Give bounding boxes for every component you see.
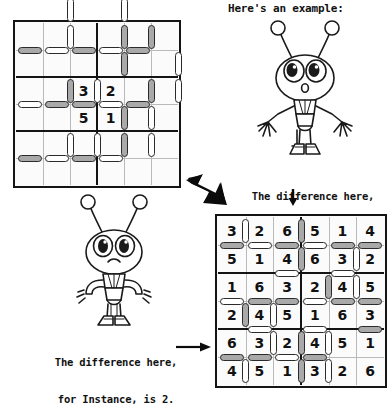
grid-cell[interactable]: 5 bbox=[301, 217, 329, 245]
grid-cell[interactable]: 4 bbox=[273, 245, 301, 273]
grid-cell[interactable] bbox=[43, 50, 70, 77]
grid-cell[interactable] bbox=[151, 131, 178, 158]
difference-marker-horizontal bbox=[220, 242, 244, 249]
grid-cell[interactable] bbox=[151, 77, 178, 104]
grid-cell[interactable] bbox=[151, 104, 178, 131]
difference-marker-horizontal bbox=[18, 47, 42, 54]
grid-cell[interactable]: 5 bbox=[246, 357, 274, 385]
grid-cell[interactable]: 1 bbox=[356, 329, 384, 357]
grid-cell[interactable]: 3 bbox=[356, 301, 384, 329]
grid-cell[interactable]: 1 bbox=[97, 104, 124, 131]
arrow-down-icon bbox=[286, 189, 300, 207]
difference-marker-vertical bbox=[242, 303, 249, 327]
grid-cell[interactable]: 5 bbox=[218, 245, 246, 273]
grid-cell[interactable]: 6 bbox=[246, 273, 274, 301]
grid-cell[interactable] bbox=[16, 104, 43, 131]
difference-marker-horizontal bbox=[303, 298, 327, 305]
grid-cell[interactable] bbox=[70, 50, 97, 77]
difference-marker-horizontal bbox=[331, 298, 355, 305]
grid-cell[interactable]: 2 bbox=[329, 357, 357, 385]
difference-marker-vertical bbox=[175, 52, 182, 76]
alien-character-arms-out-icon bbox=[252, 18, 358, 158]
solved-example-grid[interactable]: 326514514632163245245163632451451326 bbox=[215, 214, 387, 388]
grid-cell[interactable]: 5 bbox=[329, 329, 357, 357]
grid-cell[interactable] bbox=[151, 50, 178, 77]
difference-marker-horizontal bbox=[331, 242, 355, 249]
difference-marker-horizontal bbox=[358, 242, 382, 249]
grid-cell[interactable] bbox=[151, 158, 178, 185]
grid-cell[interactable] bbox=[43, 77, 70, 104]
thick-arrow-down-right-icon bbox=[182, 168, 230, 212]
grid-cell[interactable] bbox=[16, 131, 43, 158]
difference-marker-horizontal bbox=[99, 47, 123, 54]
grid-cell[interactable] bbox=[124, 104, 151, 131]
difference-marker-horizontal bbox=[275, 354, 299, 361]
difference-marker-vertical bbox=[121, 52, 128, 76]
difference-marker-vertical bbox=[242, 219, 249, 243]
difference-marker-vertical bbox=[121, 25, 128, 49]
grid-cell[interactable] bbox=[124, 77, 151, 104]
grid-cell[interactable] bbox=[97, 23, 124, 50]
difference-marker-horizontal bbox=[18, 155, 42, 162]
grid-cell[interactable] bbox=[16, 77, 43, 104]
grid-cell[interactable] bbox=[16, 50, 43, 77]
grid-cell[interactable]: 6 bbox=[301, 245, 329, 273]
difference-marker-vertical bbox=[94, 133, 101, 157]
grid-cell[interactable]: 6 bbox=[329, 301, 357, 329]
difference-marker-vertical bbox=[325, 359, 332, 383]
grid-cell[interactable]: 5 bbox=[70, 104, 97, 131]
grid-cell[interactable]: 2 bbox=[97, 77, 124, 104]
grid-cell[interactable] bbox=[97, 158, 124, 185]
grid-cell[interactable] bbox=[124, 50, 151, 77]
grid-cell[interactable] bbox=[97, 131, 124, 158]
unsolved-puzzle-grid[interactable]: 3251 bbox=[13, 20, 181, 188]
difference-marker-edge bbox=[121, 0, 128, 22]
difference-marker-vertical bbox=[175, 79, 182, 103]
grid-cell[interactable] bbox=[151, 23, 178, 50]
grid-cell[interactable]: 1 bbox=[329, 217, 357, 245]
grid-cell[interactable]: 3 bbox=[273, 273, 301, 301]
grid-cell[interactable]: 6 bbox=[218, 329, 246, 357]
grid-cell[interactable] bbox=[124, 158, 151, 185]
grid-cell[interactable]: 2 bbox=[246, 217, 274, 245]
grid-cell[interactable]: 1 bbox=[218, 273, 246, 301]
difference-marker-horizontal bbox=[248, 242, 272, 249]
example-heading: Here's an example: bbox=[228, 3, 344, 16]
grid-cell[interactable] bbox=[43, 158, 70, 185]
grid-cell[interactable]: 1 bbox=[246, 245, 274, 273]
grid-cell[interactable]: 1 bbox=[301, 301, 329, 329]
difference-marker-vertical bbox=[298, 219, 305, 243]
grid-cell[interactable]: 6 bbox=[273, 217, 301, 245]
difference-marker-vertical bbox=[148, 106, 155, 130]
grid-cell[interactable] bbox=[16, 23, 43, 50]
grid-cell[interactable]: 5 bbox=[356, 273, 384, 301]
difference-marker-vertical bbox=[353, 275, 360, 299]
grid-cell[interactable]: 1 bbox=[273, 357, 301, 385]
difference-marker-horizontal bbox=[99, 101, 123, 108]
grid-cell[interactable] bbox=[97, 50, 124, 77]
grid-cell[interactable] bbox=[16, 158, 43, 185]
difference-marker-horizontal bbox=[303, 242, 327, 249]
grid-cell[interactable] bbox=[70, 23, 97, 50]
difference-marker-vertical bbox=[353, 247, 360, 271]
grid-cell[interactable] bbox=[70, 158, 97, 185]
grid-cell[interactable]: 4 bbox=[356, 217, 384, 245]
grid-cell[interactable]: 6 bbox=[356, 357, 384, 385]
grid-cell[interactable] bbox=[124, 131, 151, 158]
grid-cell[interactable] bbox=[43, 104, 70, 131]
grid-cell[interactable] bbox=[43, 131, 70, 158]
arrow-right-icon bbox=[176, 340, 212, 354]
grid-cell[interactable]: 5 bbox=[273, 301, 301, 329]
grid-cell[interactable] bbox=[124, 23, 151, 50]
grid-cell[interactable]: 2 bbox=[356, 245, 384, 273]
grid-cell[interactable] bbox=[43, 23, 70, 50]
difference-marker-vertical bbox=[298, 247, 305, 271]
grid-cell[interactable] bbox=[70, 131, 97, 158]
grid-cell[interactable]: 2 bbox=[273, 329, 301, 357]
grid-cell[interactable]: 3 bbox=[70, 77, 97, 104]
difference-marker-horizontal bbox=[275, 270, 299, 277]
difference-marker-horizontal bbox=[275, 298, 299, 305]
difference-marker-vertical bbox=[270, 331, 277, 355]
difference-marker-horizontal bbox=[275, 242, 299, 249]
difference-caption-right-line1: The difference here, bbox=[239, 190, 387, 202]
